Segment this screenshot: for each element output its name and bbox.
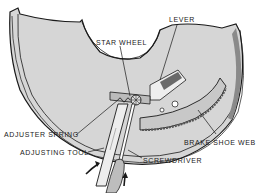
label-adjuster-spring: ADJUSTER SPRING — [4, 131, 79, 139]
shoe-hole-1 — [172, 101, 178, 107]
label-lever: LEVER — [169, 16, 195, 24]
brake-adjuster-diagram: LEVER STAR WHEEL ADJUSTER SPRING ADJUSTI… — [0, 0, 256, 193]
label-adjusting-tool: ADJUSTING TOOL — [20, 149, 89, 157]
label-star-wheel: STAR WHEEL — [96, 39, 147, 47]
label-brake-shoe-web: BRAKE SHOE WEB — [184, 139, 256, 147]
push-arrow-left — [86, 164, 98, 174]
shoe-hole-2 — [160, 108, 164, 112]
label-screwdriver: SCREWDRIVER — [143, 157, 202, 165]
backing-plate-illustration — [0, 0, 256, 193]
